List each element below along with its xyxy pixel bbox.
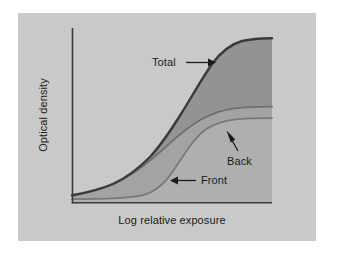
x-axis-label: Log relative exposure xyxy=(118,214,225,226)
total-label: Total xyxy=(152,56,176,68)
y-axis-label: Optical density xyxy=(37,78,49,152)
front-label: Front xyxy=(201,174,227,186)
chart-canvas: Total Back Front Log relative exposure O… xyxy=(0,0,337,261)
figure-root: Total Back Front Log relative exposure O… xyxy=(0,0,337,261)
back-label: Back xyxy=(227,155,252,167)
